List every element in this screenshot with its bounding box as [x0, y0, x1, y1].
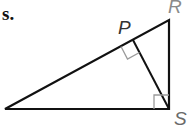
triangle-TRS [5, 20, 169, 109]
triangle-diagram [0, 0, 187, 136]
vertex-label-P: P [118, 17, 131, 39]
vertex-label-S: S [174, 108, 187, 130]
right-angle-marker-S [154, 95, 169, 109]
vertex-label-R: R [168, 0, 182, 18]
altitude-SP [133, 40, 169, 109]
